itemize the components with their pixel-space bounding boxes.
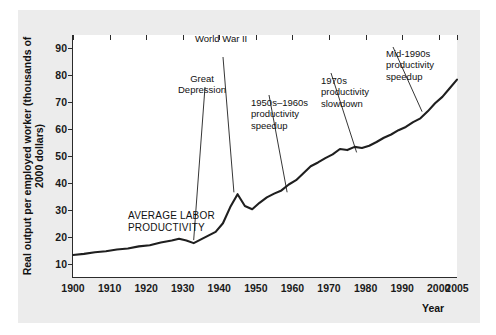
x-tick-label: 1970	[317, 277, 340, 294]
annotation-1950s-1960s-speedup: 1950s–1960s productivity speedup	[251, 97, 308, 131]
x-tick-label: 1980	[354, 277, 377, 294]
annotation-mid-1990s-speedup: Mid-1990s productivity speedup	[386, 48, 434, 82]
y-tick-label: 40	[55, 177, 73, 189]
y-tick-label: 70	[55, 96, 73, 108]
x-tick-label: 1950	[244, 277, 267, 294]
annotation-great-depression: Great Depression	[178, 73, 226, 96]
x-tick-label: 1930	[171, 277, 194, 294]
y-tick-label: 10	[55, 258, 73, 270]
y-axis-label: Real output per employed worker (thousan…	[22, 35, 44, 277]
x-tick-label: 1960	[281, 277, 304, 294]
x-tick-label: 1940	[208, 277, 231, 294]
x-tick-label: 1990	[390, 277, 413, 294]
annotation-1970s-slowdown: 1970s productivity slowdown	[321, 75, 369, 109]
y-tick-label: 30	[55, 204, 73, 216]
y-tick-label: 60	[55, 123, 73, 135]
plot-area: 102030405060708090 190019101920193019401…	[72, 35, 457, 278]
y-tick-label: 90	[55, 42, 73, 54]
y-tick-label: 20	[55, 231, 73, 243]
annotation-world-war-ii: World War II	[195, 33, 247, 44]
x-tick-mark	[457, 35, 458, 40]
y-tick-label: 50	[55, 150, 73, 162]
y-tick-label: 80	[55, 69, 73, 81]
annotation-average-labor-productivity: AVERAGE LABOR PRODUCTIVITY	[128, 210, 215, 234]
x-tick-label: 1920	[134, 277, 157, 294]
x-tick-label: 2005	[445, 277, 468, 294]
figure-panel: Real output per employed worker (thousan…	[18, 10, 480, 323]
x-tick-label: 1900	[61, 277, 84, 294]
x-axis-label: Year	[422, 302, 444, 314]
x-tick-label: 1910	[98, 277, 121, 294]
